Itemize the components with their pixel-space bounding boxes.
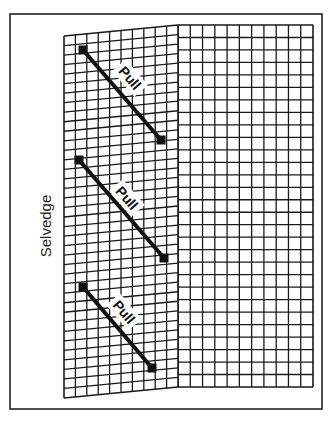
arrow-end-icon [79, 46, 88, 55]
arrow-end-icon [157, 136, 166, 145]
arrow-end-icon [75, 156, 84, 165]
straight-grain-grid [178, 25, 313, 387]
arrow-end-icon [148, 364, 157, 373]
arrow-end-icon [79, 283, 88, 292]
fabric-grain-diagram: PullPullPull Selvedge [0, 0, 336, 422]
selvedge-label: Selvedge [37, 195, 54, 258]
arrow-end-icon [160, 254, 169, 263]
